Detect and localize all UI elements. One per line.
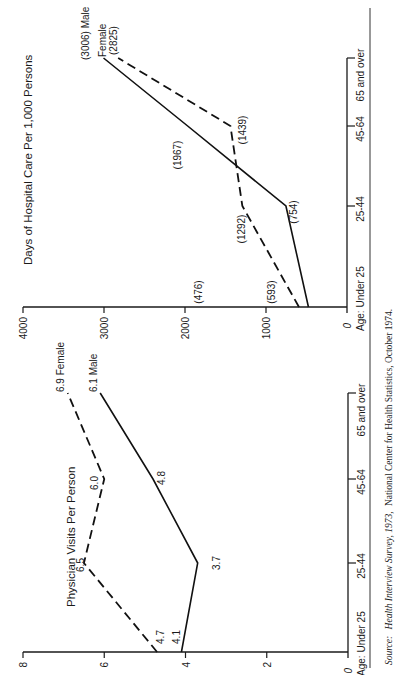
age-category: Under 25 [356, 611, 367, 653]
source-rest: National Center for Health Statistics, O… [384, 309, 394, 506]
hospital-label-male: (754) [288, 200, 299, 223]
physician-series-female [68, 393, 157, 652]
hospital-age-label: Age:Under 25 [355, 266, 366, 331]
physician-age-label: 65 and over [356, 383, 367, 436]
age-prefix: Age: [356, 655, 367, 675]
physician-label-female: 6.9 Female [55, 342, 66, 392]
physician-value-tick-label: 0 [343, 668, 354, 674]
hospital-label-female: Female [97, 23, 108, 57]
physician-value-tick-label: 2 [262, 662, 273, 668]
hospital-value-tick-label: 1000 [261, 317, 272, 340]
physician-value-tick-label: 4 [181, 662, 192, 668]
source-title: Health Interview Survey, 1973, [384, 511, 394, 630]
hospital-label-female: (1292) [236, 215, 247, 244]
physician-age-label: 25-44 [356, 553, 367, 579]
physician-value-tick-label: 6 [99, 662, 110, 668]
physician-label-female: 6.5 [75, 558, 86, 572]
physician-label-male: 4.8 [156, 471, 167, 485]
physician-label-male: 3.7 [211, 556, 222, 570]
physician-age-label: Age:Under 25 [356, 611, 367, 675]
physician-chart-title: Physician Visits Per Person [65, 467, 77, 607]
source-note: Source: Health Interview Survey, 1973, N… [384, 309, 394, 665]
hospital-age-label: 45-64 [355, 116, 366, 142]
hospital-label-male: (3006) Male [80, 6, 91, 60]
physician-series-male [100, 393, 198, 652]
hospital-age-label: 65 and over [355, 48, 366, 101]
physician-value-tick-label: 8 [18, 662, 29, 668]
hospital-value-tick-label: 3000 [99, 317, 110, 340]
hospital-label-female: (1439) [237, 116, 248, 145]
physician-visits-chart: Physician Visits Per Person 02468Age:Und… [18, 342, 367, 675]
hospital-label-female: (2825) [108, 26, 119, 55]
hospital-axes: 01000200030004000Age:Under 2525-4445-646… [18, 48, 366, 339]
figure: Days of Hospital Care Per 1,000 Persons … [0, 0, 409, 675]
hospital-value-tick-label: 2000 [180, 317, 191, 340]
hospital-age-label: 25-44 [355, 196, 366, 222]
hospital-label-male: (476) [193, 280, 204, 303]
hospital-label-female: (593) [266, 280, 277, 303]
hospital-value-tick-label: 0 [342, 323, 353, 329]
hospital-days-chart: Days of Hospital Care Per 1,000 Persons … [18, 6, 366, 339]
physician-label-male: 6.1 Male [88, 353, 99, 392]
hospital-label-male: (1967) [172, 141, 183, 170]
hospital-chart-title: Days of Hospital Care Per 1,000 Persons [22, 54, 34, 265]
source-prefix: Source: [384, 636, 394, 665]
hospital-series-female [118, 58, 299, 307]
hospital-value-tick-label: 4000 [18, 317, 29, 340]
physician-label-male: 4.1 [171, 630, 182, 644]
physician-label-female: 4.7 [155, 630, 166, 644]
physician-label-female: 6.0 [89, 476, 100, 490]
age-prefix: Age: [355, 310, 366, 331]
age-category: Under 25 [355, 266, 366, 308]
physician-age-label: 45-64 [356, 469, 367, 495]
